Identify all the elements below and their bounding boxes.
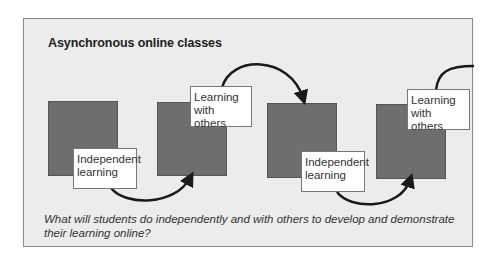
label-line-2: with others xyxy=(411,107,466,133)
label-line-2: learning xyxy=(305,169,361,182)
guiding-question: What will students do independently and … xyxy=(44,212,464,240)
label-line-1: Independent xyxy=(305,156,361,169)
label-independent-learning-1: Independent learning xyxy=(73,148,137,189)
label-learning-with-others-1: Learning with others xyxy=(190,86,252,127)
label-line-2: with others xyxy=(194,104,248,130)
label-line-1: Independent xyxy=(77,153,133,166)
label-line-1: Learning xyxy=(194,91,248,104)
arrow-4-continue xyxy=(436,66,474,90)
label-learning-with-others-2: Learning with others xyxy=(407,89,470,130)
label-line-1: Learning xyxy=(411,94,466,107)
label-line-2: learning xyxy=(77,166,133,179)
label-independent-learning-2: Independent learning xyxy=(301,151,365,192)
